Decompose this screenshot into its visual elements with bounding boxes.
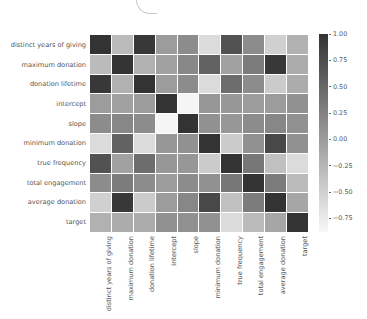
heatmap-cell (243, 55, 264, 74)
heatmap-cell (221, 213, 242, 232)
heatmap-cell (178, 55, 199, 74)
heatmap-cell (90, 213, 111, 232)
heatmap-cell (112, 114, 133, 133)
heatmap-cell (90, 55, 111, 74)
heatmap-cell (265, 75, 286, 94)
colorbar-ticks: 1.000.750.500.250.00−0.25−0.50−0.75 (329, 34, 367, 232)
heatmap-cell (134, 213, 155, 232)
colorbar-tick-label: −0.50 (329, 188, 353, 196)
heatmap-cell (156, 114, 177, 133)
x-tick: distinct years of giving (90, 236, 112, 316)
scan-artifact-curve (136, 0, 157, 14)
heatmap-cell (90, 35, 111, 54)
heatmap-cell (243, 35, 264, 54)
heatmap-cell (112, 213, 133, 232)
heatmap-cell (287, 154, 308, 173)
heatmap-cell (199, 55, 220, 74)
heatmap-cell (265, 94, 286, 113)
heatmap-cell (287, 174, 308, 193)
heatmap-cell (134, 154, 155, 173)
heatmap-cell (287, 55, 308, 74)
heatmap-cell (112, 94, 133, 113)
heatmap-cell (199, 213, 220, 232)
heatmap-cell (221, 55, 242, 74)
heatmap-cell (221, 114, 242, 133)
x-tick: donation lifetime (134, 236, 156, 316)
heatmap-cell (221, 174, 242, 193)
y-tick-label: maximum donation (0, 61, 86, 69)
heatmap-cell (90, 75, 111, 94)
heatmap-cell (112, 193, 133, 212)
heatmap-cell (199, 134, 220, 153)
heatmap-cell (199, 174, 220, 193)
colorbar (319, 34, 328, 232)
heatmap-cell (287, 35, 308, 54)
heatmap-cell (134, 134, 155, 153)
heatmap-cell (178, 94, 199, 113)
heatmap-grid (90, 35, 308, 232)
heatmap-cell (112, 134, 133, 153)
x-tick: minimum donation (199, 236, 221, 316)
heatmap-cell (178, 193, 199, 212)
heatmap-cell (156, 134, 177, 153)
colorbar-tick-label: 0.75 (329, 56, 347, 64)
heatmap-cell (265, 134, 286, 153)
heatmap-cell (178, 154, 199, 173)
heatmap-cell (90, 94, 111, 113)
y-axis-labels: distinct years of givingmaximum donation… (0, 35, 86, 232)
heatmap-cell (112, 174, 133, 193)
heatmap-cell (90, 134, 111, 153)
heatmap-cell (243, 213, 264, 232)
heatmap-cell (243, 134, 264, 153)
heatmap-cell (265, 35, 286, 54)
x-tick: true frequency (221, 236, 243, 316)
heatmap-cell (265, 154, 286, 173)
heatmap-cell (243, 193, 264, 212)
heatmap-cell (178, 134, 199, 153)
heatmap-cell (199, 114, 220, 133)
heatmap-cell (178, 114, 199, 133)
heatmap-cell (178, 35, 199, 54)
x-tick-label: target (301, 236, 309, 256)
y-tick-label: slope (0, 120, 86, 128)
colorbar-tick-label: 0.00 (329, 135, 347, 143)
heatmap-cell (156, 35, 177, 54)
heatmap-cell (243, 154, 264, 173)
colorbar-tick-label: 0.50 (329, 83, 347, 91)
x-tick: slope (177, 236, 199, 316)
heatmap-cell (112, 55, 133, 74)
heatmap-cell (112, 75, 133, 94)
heatmap-cell (287, 94, 308, 113)
heatmap-cell (199, 75, 220, 94)
heatmap-cell (287, 114, 308, 133)
heatmap-cell (243, 114, 264, 133)
y-tick-label: distinct years of giving (0, 41, 86, 49)
heatmap-cell (156, 94, 177, 113)
heatmap-cell (90, 154, 111, 173)
heatmap-cell (112, 154, 133, 173)
heatmap-cell (134, 75, 155, 94)
heatmap-cell (243, 94, 264, 113)
heatmap-cell (134, 114, 155, 133)
heatmap-cell (221, 94, 242, 113)
heatmap-cell (156, 154, 177, 173)
heatmap-cell (156, 174, 177, 193)
heatmap-cell (287, 213, 308, 232)
heatmap-cell (243, 174, 264, 193)
heatmap-cell (178, 174, 199, 193)
heatmap-cell (112, 35, 133, 54)
y-tick-label: total engagement (0, 179, 86, 187)
heatmap-cell (221, 134, 242, 153)
heatmap-cell (265, 55, 286, 74)
y-tick-label: target (0, 218, 86, 226)
y-tick-label: donation lifetime (0, 80, 86, 88)
y-tick-label: intercept (0, 100, 86, 108)
heatmap-cell (221, 193, 242, 212)
heatmap-cell (221, 154, 242, 173)
heatmap-cell (287, 75, 308, 94)
y-tick-label: minimum donation (0, 139, 86, 147)
x-tick: intercept (155, 236, 177, 316)
heatmap-cell (90, 114, 111, 133)
colorbar-tick-label: −0.25 (329, 162, 353, 170)
heatmap-cell (265, 114, 286, 133)
